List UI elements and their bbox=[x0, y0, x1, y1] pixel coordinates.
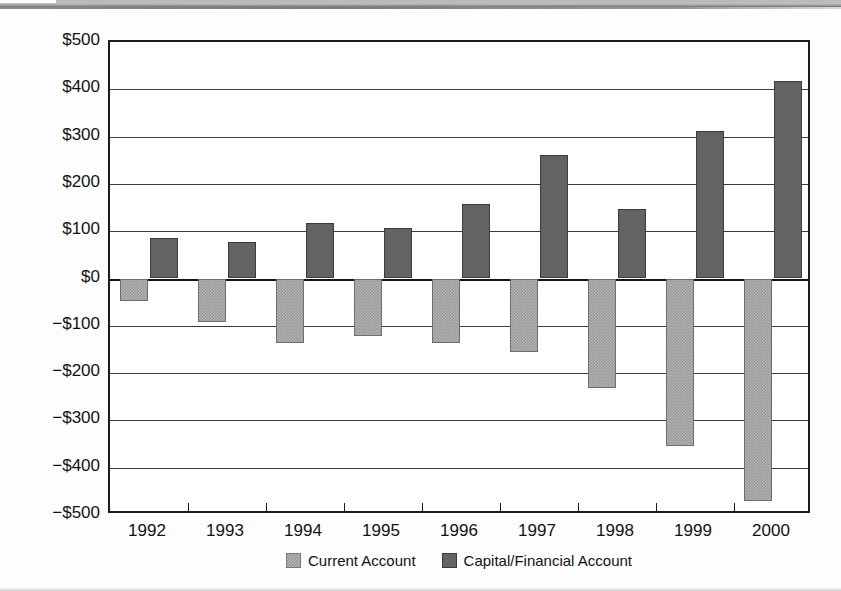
y-axis-tick-label: −$400 bbox=[14, 456, 100, 476]
legend-label: Current Account bbox=[308, 552, 416, 569]
y-axis-tick-label: $0 bbox=[14, 267, 100, 287]
x-axis-tick bbox=[500, 503, 501, 512]
x-axis-tick bbox=[656, 503, 657, 512]
x-axis-tick bbox=[188, 503, 189, 512]
x-axis-label-1995: 1995 bbox=[362, 521, 400, 541]
bar-1994-capital-financial-account bbox=[306, 223, 334, 279]
x-axis-tick bbox=[344, 503, 345, 512]
y-axis-tick-label: $200 bbox=[14, 172, 100, 192]
y-axis-tick-label: −$100 bbox=[14, 314, 100, 334]
x-axis-label-2000: 2000 bbox=[752, 521, 790, 541]
legend-swatch-icon bbox=[442, 553, 457, 568]
legend-item-capital-financial-account: Capital/Financial Account bbox=[442, 552, 632, 569]
bar-2000-capital-financial-account bbox=[774, 81, 802, 278]
bar-1993-capital-financial-account bbox=[228, 242, 256, 278]
banner-notch bbox=[0, 0, 56, 3]
bar-1993-current-account bbox=[198, 279, 226, 323]
x-axis-label-1999: 1999 bbox=[674, 521, 712, 541]
bar-1997-current-account bbox=[510, 279, 538, 352]
y-axis-tick-label: $300 bbox=[14, 125, 100, 145]
bar-1992-capital-financial-account bbox=[150, 238, 178, 278]
x-axis-label-1996: 1996 bbox=[440, 521, 478, 541]
bar-1994-current-account bbox=[276, 279, 304, 343]
bar-2000-current-account bbox=[744, 279, 772, 501]
x-axis-tick bbox=[578, 503, 579, 512]
legend-item-current-account: Current Account bbox=[286, 552, 416, 569]
x-axis-tick bbox=[266, 503, 267, 512]
x-axis-label-1993: 1993 bbox=[206, 521, 244, 541]
figure-title-banner bbox=[0, 0, 841, 7]
legend-label: Capital/Financial Account bbox=[464, 552, 632, 569]
bar-1996-capital-financial-account bbox=[462, 204, 490, 278]
x-axis-labels: 199219931994199519961997199819992000 bbox=[108, 521, 810, 549]
bars-layer bbox=[110, 42, 808, 511]
y-axis-labels: $500$400$300$200$100$0−$100−$200−$300−$4… bbox=[0, 40, 100, 513]
x-axis-tick bbox=[422, 503, 423, 512]
y-axis-tick-label: −$300 bbox=[14, 408, 100, 428]
y-axis-tick-label: $400 bbox=[14, 77, 100, 97]
y-axis-tick-label: $500 bbox=[14, 30, 100, 50]
bar-1999-current-account bbox=[666, 279, 694, 447]
legend-swatch-icon bbox=[286, 553, 301, 568]
y-axis-tick-label: $100 bbox=[14, 219, 100, 239]
y-axis-tick-label: −$200 bbox=[14, 361, 100, 381]
page-bottom-edge bbox=[0, 587, 841, 591]
x-axis-label-1994: 1994 bbox=[284, 521, 322, 541]
bar-1997-capital-financial-account bbox=[540, 155, 568, 279]
x-axis-label-1998: 1998 bbox=[596, 521, 634, 541]
bar-1998-capital-financial-account bbox=[618, 209, 646, 279]
x-axis-label-1997: 1997 bbox=[518, 521, 556, 541]
bar-chart-figure: $500$400$300$200$100$0−$100−$200−$300−$4… bbox=[0, 9, 841, 591]
bar-1996-current-account bbox=[432, 279, 460, 343]
bar-1995-capital-financial-account bbox=[384, 228, 412, 279]
bar-1995-current-account bbox=[354, 279, 382, 337]
x-axis-label-1992: 1992 bbox=[128, 521, 166, 541]
bar-1999-capital-financial-account bbox=[696, 131, 724, 279]
bar-1998-current-account bbox=[588, 279, 616, 389]
x-axis-tick bbox=[734, 503, 735, 512]
plot-area bbox=[108, 40, 810, 513]
y-axis-tick-label: −$500 bbox=[14, 503, 100, 523]
bar-1992-current-account bbox=[120, 279, 148, 302]
chart-legend: Current AccountCapital/Financial Account bbox=[108, 552, 810, 569]
